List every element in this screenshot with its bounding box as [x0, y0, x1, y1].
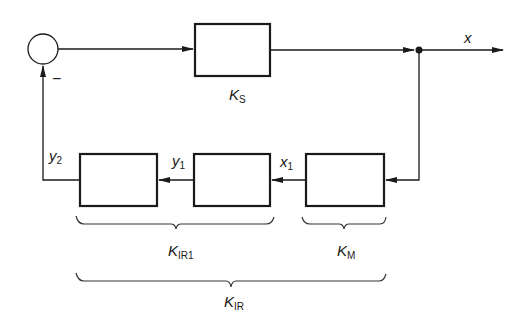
- block-diagram: KS x x1 y1 y2 − KIR1 KM KIR: [0, 0, 525, 323]
- block-ks: [195, 24, 270, 76]
- block-ir1-second: [194, 154, 270, 206]
- label-y1: y1: [171, 152, 186, 171]
- label-y2: y2: [48, 147, 63, 166]
- label-kir1: KIR1: [168, 242, 194, 261]
- label-ks: KS: [229, 86, 246, 105]
- signal-line-feedback-in: [386, 50, 419, 180]
- label-km: KM: [337, 242, 355, 261]
- label-output-x: x: [463, 29, 472, 46]
- block-km: [306, 154, 384, 206]
- feedback-sign: −: [52, 70, 61, 87]
- brace-kir: [76, 273, 386, 287]
- block-ir1-first: [80, 154, 157, 206]
- summing-junction: [28, 34, 58, 64]
- brace-kir1: [76, 216, 274, 229]
- label-x1: x1: [279, 153, 294, 172]
- label-kir: KIR: [224, 293, 244, 312]
- brace-km: [302, 217, 386, 229]
